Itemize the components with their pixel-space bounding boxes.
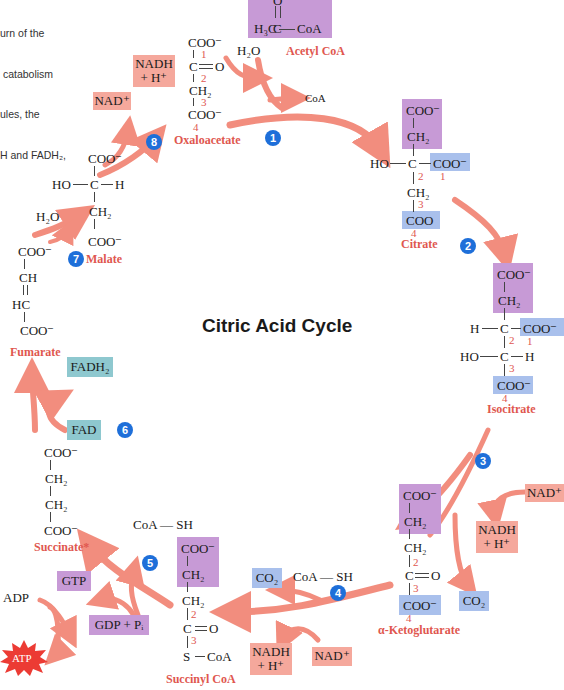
isocitrate-coo-top: COO⁻ bbox=[497, 268, 531, 281]
gtp-text: GTP bbox=[62, 574, 87, 588]
malate-coo-bottom: COO⁻ bbox=[88, 235, 122, 248]
nad-text: NAD⁺ bbox=[94, 94, 129, 108]
bond bbox=[24, 312, 25, 322]
bond bbox=[504, 364, 505, 376]
nadh-step3: NADH + H⁺ bbox=[476, 521, 518, 553]
bond bbox=[504, 308, 505, 320]
co2-text: CO₂ bbox=[256, 571, 279, 585]
isocitrate-ch2: CH₂ bbox=[498, 294, 521, 307]
bond bbox=[50, 512, 51, 522]
nadh-step4: NADH + H⁺ bbox=[250, 643, 292, 675]
succinyl-coo: COO⁻ bbox=[181, 542, 215, 555]
nad-step3: NAD⁺ bbox=[525, 484, 564, 502]
step-2-marker: 2 bbox=[460, 238, 476, 254]
step-8-marker: 8 bbox=[146, 134, 162, 150]
fad-box: FAD bbox=[67, 420, 101, 440]
bond bbox=[511, 328, 521, 329]
bond bbox=[504, 336, 505, 348]
bond bbox=[193, 74, 194, 82]
carbon-number: 2 bbox=[509, 334, 515, 346]
nadh-text: NADH bbox=[478, 523, 516, 537]
isocitrate-c3: C bbox=[500, 350, 509, 363]
succinyl-o: O bbox=[209, 622, 218, 635]
citrate-coo-right: COO⁻ bbox=[433, 157, 467, 170]
carbon-number: 1 bbox=[201, 48, 207, 60]
h2o-label: H₂O bbox=[237, 44, 260, 57]
bond bbox=[24, 259, 25, 269]
citrate-coo-top: COO⁻ bbox=[406, 104, 440, 117]
bond bbox=[50, 486, 51, 496]
citrate-ho: HO bbox=[370, 157, 389, 170]
bond bbox=[94, 166, 95, 176]
coash-step5: CoA — SH bbox=[133, 518, 193, 531]
akg-ch2-1: CH₂ bbox=[404, 515, 427, 528]
nad-text: NAD⁺ bbox=[314, 649, 349, 663]
fumarate-ch: CH bbox=[19, 271, 37, 284]
h-plus-text: + H⁺ bbox=[141, 71, 168, 85]
carbon-number: 2 bbox=[418, 170, 424, 182]
coa-released-label: CoA bbox=[305, 93, 326, 104]
succinyl-coa-label: Succinyl CoA bbox=[166, 672, 236, 687]
fumarate-coo-bottom: COO⁻ bbox=[20, 324, 54, 337]
gdp-text: GDP + Pᵢ bbox=[95, 618, 144, 632]
akg-c: C bbox=[405, 569, 414, 582]
bond bbox=[283, 29, 295, 30]
carbon-number: 2 bbox=[413, 556, 419, 568]
succinyl-ch2-1: CH₂ bbox=[182, 568, 205, 581]
gdp-pi-box: GDP + Pᵢ bbox=[89, 615, 149, 635]
carbon-number: 2 bbox=[191, 608, 197, 620]
isocitrate-label: Isocitrate bbox=[487, 402, 536, 417]
succinate-label: Succinate* bbox=[34, 540, 89, 555]
fumarate-coo-top: COO⁻ bbox=[18, 245, 52, 258]
h2o-step7: H₂O bbox=[36, 210, 59, 223]
nad-step4: NAD⁺ bbox=[312, 647, 352, 666]
bond bbox=[94, 192, 95, 202]
carbon-number: 1 bbox=[527, 335, 533, 347]
fadh2-box: FADH₂ bbox=[67, 357, 113, 377]
malate-ch2: CH₂ bbox=[89, 205, 112, 218]
succinate-ch2-2: CH₂ bbox=[45, 498, 68, 511]
carbon-number: 1 bbox=[440, 170, 446, 182]
oxaloacetate-c: C bbox=[189, 60, 198, 73]
bond bbox=[187, 608, 188, 620]
step-3-marker: 3 bbox=[475, 453, 491, 469]
acetyl-coa-coa: CoA bbox=[297, 22, 322, 35]
citrate-label: Citrate bbox=[401, 237, 438, 252]
succinate-coo-top: COO⁻ bbox=[44, 446, 78, 459]
bond bbox=[409, 583, 410, 595]
co2-step3: CO₂ bbox=[459, 591, 489, 611]
oxaloacetate-label: Oxaloacetate bbox=[174, 133, 241, 148]
succinyl-ch2-2: CH₂ bbox=[182, 594, 205, 607]
malate-coo-top: COO⁻ bbox=[88, 152, 122, 165]
bond bbox=[187, 636, 188, 648]
akg-ch2-2: CH₂ bbox=[404, 541, 427, 554]
malate-ho: HO bbox=[52, 178, 71, 191]
atp-label: ATP bbox=[12, 652, 32, 664]
bond bbox=[419, 163, 431, 164]
step-6-marker: 6 bbox=[117, 422, 133, 438]
fumarate-label: Fumarate bbox=[10, 345, 61, 360]
citrate-coo-bottom: COO bbox=[406, 214, 433, 227]
bond bbox=[504, 282, 505, 292]
bond bbox=[409, 529, 410, 539]
nad-text: NAD⁺ bbox=[527, 486, 562, 500]
nadh-step8: NADH + H⁺ bbox=[133, 55, 175, 87]
carbon-number: 3 bbox=[191, 634, 197, 646]
bond bbox=[480, 356, 498, 357]
acetyl-coa-label: Acetyl CoA bbox=[286, 44, 345, 59]
bond bbox=[73, 184, 88, 185]
oxaloacetate-coo-4: COO⁻ bbox=[188, 108, 222, 121]
step-4-marker: 4 bbox=[330, 585, 346, 601]
adp-label: ADP bbox=[3, 591, 29, 604]
h-plus-text: + H⁺ bbox=[484, 537, 511, 551]
step-5-marker: 5 bbox=[142, 555, 158, 571]
citrate-ch2-top: CH₂ bbox=[407, 130, 430, 143]
double-bond bbox=[415, 573, 429, 578]
double-bond bbox=[23, 285, 28, 295]
step-1-marker: 1 bbox=[265, 130, 281, 146]
citrate-c: C bbox=[408, 157, 417, 170]
fad-text: FAD bbox=[71, 423, 96, 437]
bond bbox=[94, 219, 95, 229]
isocitrate-h: H bbox=[470, 322, 479, 335]
isocitrate-c2: C bbox=[500, 322, 509, 335]
